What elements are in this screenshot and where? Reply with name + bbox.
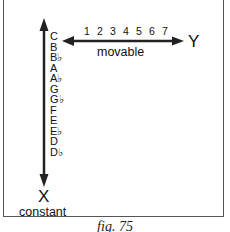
arrow-left-icon: [62, 36, 74, 46]
vertical-double-arrow: [40, 18, 49, 187]
movable-label: movable: [97, 45, 144, 59]
number-7: 7: [162, 25, 168, 37]
scale-diagram: C B B♭ A A♭ G G♭ F E E♭ D D♭ 1 2 3 4 5 6…: [0, 0, 230, 232]
x-label: X: [38, 187, 49, 206]
number-4: 4: [123, 25, 129, 37]
figure-caption: fig. 75: [0, 219, 230, 232]
arrow-down-icon: [40, 174, 49, 187]
number-2: 2: [97, 25, 103, 37]
number-5: 5: [136, 25, 142, 37]
position-numbers: 1 2 3 4 5 6 7: [84, 25, 168, 37]
note-d-flat: D♭: [50, 146, 63, 158]
arrow-right-icon: [172, 37, 184, 46]
y-label: Y: [188, 32, 199, 51]
number-1: 1: [84, 25, 90, 37]
constant-label: constant: [19, 205, 67, 219]
arrow-up-icon: [40, 18, 49, 31]
number-6: 6: [149, 25, 155, 37]
note-list: C B B♭ A A♭ G G♭ F E E♭ D D♭: [50, 30, 64, 158]
number-3: 3: [110, 25, 116, 37]
